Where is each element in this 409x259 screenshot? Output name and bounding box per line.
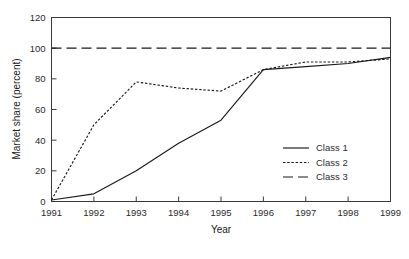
- y-tick-label: 40: [35, 135, 46, 146]
- x-tick-label: 1998: [338, 207, 359, 218]
- x-axis-ticks: [52, 197, 391, 202]
- y-tick-label: 20: [35, 165, 46, 176]
- y-tick-label: 120: [30, 12, 46, 23]
- x-tick-label: 1997: [295, 207, 316, 218]
- y-axis-ticks: [52, 18, 57, 202]
- x-axis-title: Year: [211, 224, 232, 235]
- legend-label-class-1: Class 1: [316, 142, 348, 153]
- x-tick-label: 1996: [253, 207, 274, 218]
- x-tick-label: 1999: [380, 207, 401, 218]
- y-axis-title: Market share (percent): [11, 58, 22, 159]
- chart-legend: Class 1Class 2Class 3: [283, 142, 348, 182]
- x-tick-label: 1992: [83, 207, 104, 218]
- y-tick-label: 0: [40, 196, 45, 207]
- x-tick-label: 1994: [168, 207, 189, 218]
- y-tick-label: 100: [30, 43, 46, 54]
- y-axis-tick-labels: 020406080100120: [30, 12, 46, 207]
- x-tick-label: 1995: [210, 207, 231, 218]
- legend-label-class-3: Class 3: [316, 171, 348, 182]
- y-tick-label: 60: [35, 104, 46, 115]
- y-tick-label: 80: [35, 73, 46, 84]
- line-chart: 020406080100120 199119921993199419951996…: [0, 0, 409, 259]
- x-tick-label: 1993: [126, 207, 147, 218]
- chart-figure: 020406080100120 199119921993199419951996…: [0, 0, 409, 259]
- x-axis-tick-labels: 199119921993199419951996199719981999: [41, 207, 401, 218]
- x-tick-label: 1991: [41, 207, 62, 218]
- legend-label-class-2: Class 2: [316, 157, 348, 168]
